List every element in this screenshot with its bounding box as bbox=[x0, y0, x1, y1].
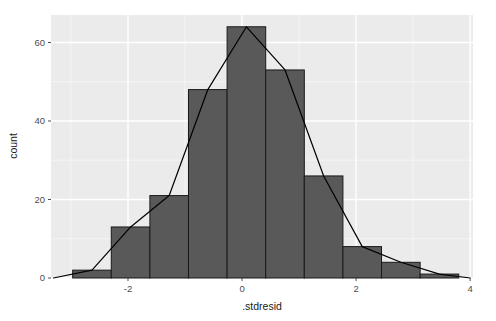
histogram-bar bbox=[227, 27, 266, 278]
y-axis-tick-label: 0 bbox=[40, 272, 45, 283]
histogram-bar bbox=[111, 227, 150, 278]
x-axis-tick-label: 2 bbox=[353, 283, 358, 294]
plot-root: 0204060 -2024 .stdresid count bbox=[0, 0, 496, 321]
histogram-bar bbox=[150, 196, 189, 278]
histogram-bar bbox=[343, 247, 382, 278]
histogram-bar bbox=[304, 176, 343, 278]
y-axis-tick-label: 60 bbox=[34, 37, 45, 48]
y-axis-tick-label: 40 bbox=[34, 115, 45, 126]
x-axis-title: .stdresid bbox=[242, 300, 282, 312]
histogram-bar bbox=[73, 270, 112, 278]
histogram-bar bbox=[382, 262, 421, 278]
y-axis-tick-label: 20 bbox=[34, 194, 45, 205]
y-axis-title: count bbox=[7, 133, 19, 159]
histogram-bar bbox=[188, 90, 227, 278]
histogram-chart: 0204060 -2024 .stdresid count bbox=[0, 0, 496, 321]
x-axis-tick-label: 4 bbox=[468, 283, 473, 294]
histogram-bar bbox=[266, 70, 305, 278]
x-axis-tick-label: 0 bbox=[239, 283, 244, 294]
x-axis-tick-label: -2 bbox=[124, 283, 132, 294]
